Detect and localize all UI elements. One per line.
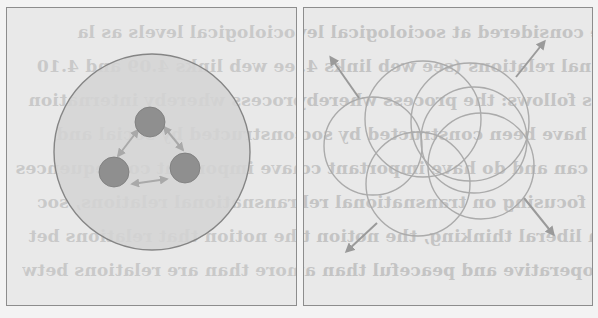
actor-node xyxy=(170,153,200,183)
left-diagram xyxy=(54,54,250,250)
overlapping-circle xyxy=(421,87,527,193)
overlapping-circle xyxy=(428,113,534,219)
scanned-page: sociological levels as la see web links … xyxy=(0,0,598,318)
right-diagram xyxy=(324,42,553,251)
outward-arrow-icon xyxy=(516,42,544,77)
overlapping-circle xyxy=(366,132,470,236)
actor-node xyxy=(99,157,129,187)
diagram-canvas xyxy=(0,0,598,318)
overlapping-circle xyxy=(324,97,422,195)
outward-arrow-icon xyxy=(347,223,377,251)
actor-node xyxy=(135,107,165,137)
outer-group-circle xyxy=(54,54,250,250)
outward-arrow-icon xyxy=(524,198,553,234)
outward-arrow-icon xyxy=(331,58,359,98)
